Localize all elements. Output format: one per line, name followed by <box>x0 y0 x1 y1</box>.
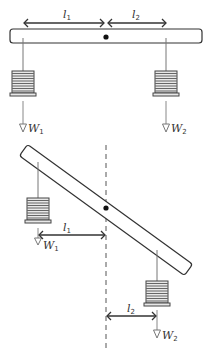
l1-distance-arrow <box>39 231 105 239</box>
l1-label: l1 <box>63 221 71 235</box>
l2-label: l2 <box>127 302 135 316</box>
horizontal-lever: l1 l2 W1 W2 <box>10 8 202 136</box>
w2-label: W2 <box>162 329 178 343</box>
w2-force-arrow <box>163 101 170 132</box>
l2-label: l2 <box>132 8 140 22</box>
tilted-lever: W1 l1 W2 l2 <box>19 144 192 348</box>
pivot-dot <box>103 34 108 39</box>
lever-diagram: l1 l2 W1 W2 <box>0 0 210 348</box>
weight-2 <box>153 71 179 96</box>
weight-2 <box>144 281 170 306</box>
w1-force-arrow <box>20 101 27 132</box>
weight-1 <box>25 198 51 223</box>
pivot-dot <box>103 205 108 210</box>
l1-label: l1 <box>63 8 71 22</box>
weight-1 <box>10 71 36 96</box>
w1-label: W1 <box>28 122 44 136</box>
w2-label: W2 <box>171 122 187 136</box>
w1-label: W1 <box>43 239 59 253</box>
